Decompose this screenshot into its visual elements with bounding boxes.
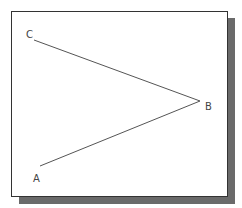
segment-b-a xyxy=(40,101,200,166)
point-label-b: B xyxy=(205,101,212,112)
point-label-a: A xyxy=(33,173,40,184)
point-label-c: C xyxy=(26,29,33,40)
segment-c-b xyxy=(34,40,200,101)
angle-diagram: C B A xyxy=(0,0,242,208)
